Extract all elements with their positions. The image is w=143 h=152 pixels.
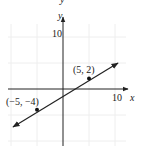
cropped-top-label: y <box>59 0 65 5</box>
graph-line <box>13 63 118 127</box>
grid <box>8 24 126 146</box>
point-5-2 <box>87 77 91 81</box>
point-label-5-2: (5, 2) <box>73 64 95 76</box>
y-tick-10: 10 <box>52 28 62 39</box>
coordinate-plane: y y x 10 10 (5, 2) (−5, −4) <box>0 0 143 152</box>
point-label-neg5-neg4: (−5, −4) <box>6 96 39 108</box>
y-axis-label: y <box>57 10 63 21</box>
point-neg5-neg4 <box>35 108 39 112</box>
x-axis-label: x <box>129 92 135 103</box>
x-tick-10: 10 <box>112 92 122 103</box>
